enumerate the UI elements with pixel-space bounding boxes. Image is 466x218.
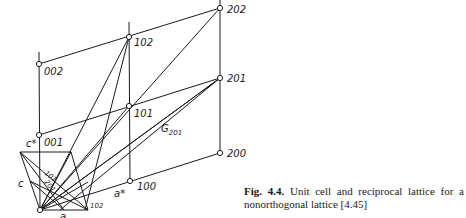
lattice-point-102 [126,34,131,39]
label-202: 202 [227,4,246,15]
figure-number: Fig. 4.4. [244,185,284,197]
lattice-point-202 [217,5,222,10]
lattice-point-000 [37,207,42,212]
label-100: 100 [137,181,156,192]
lattice-line-1 [129,22,130,181]
plane-102 [20,152,64,210]
label-g-vector: G201 [161,123,182,137]
g201-vector [40,78,220,210]
label-c-star: c* [26,138,37,149]
lattice-point-101 [126,103,131,108]
label-c: c [18,178,24,189]
label-201: 201 [227,73,246,84]
label-plane-102: 102 [90,202,104,210]
lattice-point-201 [217,75,222,80]
label-102: 102 [134,37,153,48]
label-200: 200 [227,148,246,159]
lattice-point-100 [127,178,132,183]
lattice-point-002 [36,61,41,66]
figure-caption: Fig. 4.4. Unit cell and reciprocal latti… [244,185,464,211]
label-002: 002 [44,66,63,77]
label-101: 101 [134,108,153,119]
label-001: 001 [44,137,63,148]
lattice-point-001 [36,132,41,137]
label-a-star: a* [114,188,125,199]
lattice-point-200 [217,150,222,155]
label-a: a [60,211,66,218]
